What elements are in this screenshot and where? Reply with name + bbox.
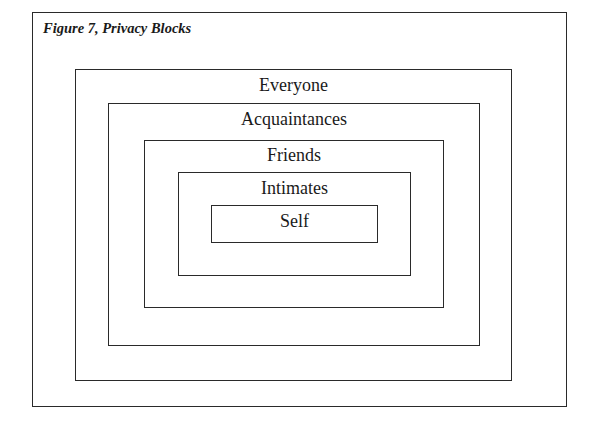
block-label-self: Self [212, 211, 377, 231]
block-label-everyone: Everyone [76, 75, 511, 95]
figure-title: Figure 7, Privacy Blocks [43, 20, 191, 37]
block-label-acquaintances: Acquaintances [109, 109, 479, 129]
block-self: Self [211, 205, 378, 243]
block-label-friends: Friends [145, 145, 443, 165]
block-label-intimates: Intimates [179, 178, 410, 198]
